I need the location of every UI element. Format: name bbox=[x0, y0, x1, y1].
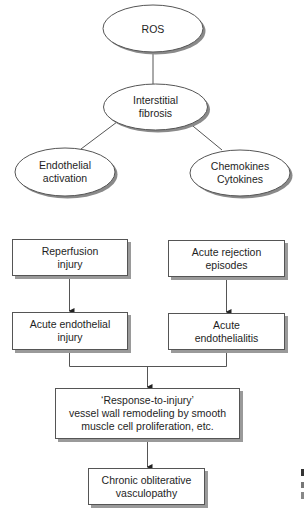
box-reperfusion-label: Reperfusion injury bbox=[42, 245, 99, 271]
box-acute-endothelialitis: Acute endothelialitis bbox=[168, 313, 285, 350]
node-interstitial-label-1: Interstitial bbox=[133, 94, 178, 106]
node-endothelial-label-1: Endothelial bbox=[39, 159, 91, 171]
node-chemokines-cytokines: Chemokines Cytokines bbox=[190, 150, 293, 199]
box-acute-rejection-label: Acute rejection episodes bbox=[192, 246, 261, 272]
cropped-fragment bbox=[301, 492, 304, 499]
node-ros-label: ROS bbox=[142, 23, 165, 35]
cropped-fragment bbox=[301, 469, 304, 476]
box-response-to-injury: ‘Response-to-injury’ vessel wall remodel… bbox=[55, 388, 240, 439]
node-chemokines-label-2: Cytokines bbox=[217, 173, 263, 185]
box-acute-endothelialitis-label: Acute endothelialitis bbox=[195, 319, 259, 345]
box-chronic-label: Chronic obliterative vasculopathy bbox=[102, 474, 192, 500]
box-acute-endothelial-injury-label: Acute endothelial injury bbox=[30, 318, 111, 344]
box-acute-rejection-episodes: Acute rejection episodes bbox=[168, 240, 285, 277]
box-acute-endothelial-injury: Acute endothelial injury bbox=[12, 312, 128, 350]
merge-connector bbox=[70, 350, 227, 367]
cropped-fragment bbox=[301, 482, 304, 488]
node-ros: ROS bbox=[103, 5, 206, 55]
box-chronic-obliterative-vasculopathy: Chronic obliterative vasculopathy bbox=[88, 468, 205, 505]
node-chemokines-label-1: Chemokines bbox=[211, 160, 269, 172]
node-endothelial-label-2: activation bbox=[43, 172, 88, 184]
box-response-to-injury-label: ‘Response-to-injury’ vessel wall remodel… bbox=[69, 394, 226, 433]
node-interstitial-label-2: fibrosis bbox=[139, 107, 172, 119]
edge-fibrosis-to-endothelial bbox=[81, 122, 117, 149]
node-interstitial-fibrosis: Interstitial fibrosis bbox=[104, 84, 211, 133]
node-endothelial-activation: Endothelial activation bbox=[15, 148, 118, 199]
box-reperfusion-injury: Reperfusion injury bbox=[12, 239, 128, 276]
